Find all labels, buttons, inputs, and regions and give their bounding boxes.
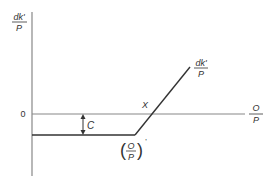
svg-text:P: P bbox=[16, 23, 22, 33]
intersection-label: X bbox=[141, 100, 149, 110]
gap-arrow-icon bbox=[81, 114, 86, 135]
svg-text:(: ( bbox=[120, 140, 126, 160]
gap-label: C bbox=[87, 120, 95, 131]
zero-label: 0 bbox=[20, 109, 25, 119]
svg-text:dk': dk' bbox=[195, 58, 207, 68]
kink-label: ( O P ) ' bbox=[120, 137, 147, 162]
svg-text:': ' bbox=[145, 137, 147, 146]
curve-label: dk' P bbox=[194, 58, 208, 79]
svg-text:P: P bbox=[198, 69, 204, 79]
svg-text:): ) bbox=[137, 140, 143, 160]
diagram-canvas: dk' P 0 C X O P dk' P ( O P ) ' bbox=[0, 0, 275, 181]
y-axis-label: dk' P bbox=[12, 12, 27, 33]
svg-text:P: P bbox=[253, 115, 259, 125]
svg-text:P: P bbox=[128, 152, 134, 162]
svg-text:dk': dk' bbox=[13, 12, 25, 22]
svg-text:O: O bbox=[127, 141, 134, 151]
svg-text:O: O bbox=[252, 103, 259, 113]
x-axis-label: O P bbox=[249, 103, 263, 125]
